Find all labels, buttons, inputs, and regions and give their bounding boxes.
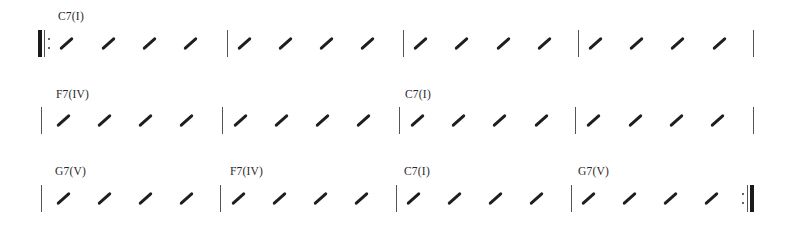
beat-slash: [354, 192, 369, 206]
barline: [571, 185, 572, 212]
chord-symbol: G7(V): [55, 165, 86, 177]
beat-slash: [622, 192, 637, 206]
beat-slash: [581, 192, 596, 206]
beat-slash: [492, 114, 507, 128]
beat-slash: [669, 114, 684, 128]
chord-symbol: C7(I): [404, 165, 430, 177]
beat-slash: [56, 192, 71, 206]
beat-slash: [315, 114, 330, 128]
barline: [575, 107, 576, 134]
end-repeat-thin-bar: [747, 185, 748, 212]
beat-slash: [138, 114, 153, 128]
beat-slash: [710, 114, 725, 128]
beat-slash: [56, 114, 71, 128]
barline: [222, 107, 223, 134]
repeat-dot: [742, 193, 744, 195]
barline: [41, 185, 42, 212]
beat-slash: [447, 192, 462, 206]
beat-slash: [410, 114, 425, 128]
end-repeat-thick-bar: [750, 185, 754, 212]
beat-slash: [406, 192, 421, 206]
beat-slash: [451, 114, 466, 128]
barline: [399, 107, 400, 134]
chord-symbol: F7(IV): [56, 88, 89, 100]
barline: [41, 107, 42, 134]
beat-slash: [233, 114, 248, 128]
system-3: G7(V) F7(IV) C7(I) G7(V): [0, 0, 794, 60]
beat-slash: [179, 114, 194, 128]
beat-slash: [97, 114, 112, 128]
barline: [753, 107, 754, 134]
beat-slash: [274, 114, 289, 128]
beat-slash: [534, 114, 549, 128]
beat-slash: [586, 114, 601, 128]
beat-slash: [488, 192, 503, 206]
beat-slash: [628, 114, 643, 128]
chord-symbol: C7(I): [405, 88, 431, 100]
beat-slash: [663, 192, 678, 206]
lead-sheet: C7(I) F7(IV): [0, 0, 794, 225]
beat-slash: [97, 192, 112, 206]
barline: [396, 185, 397, 212]
barline: [220, 185, 221, 212]
beat-slash: [356, 114, 371, 128]
beat-slash: [231, 192, 246, 206]
beat-slash: [179, 192, 194, 206]
beat-slash: [704, 192, 719, 206]
beat-slash: [138, 192, 153, 206]
beat-slash: [529, 192, 544, 206]
repeat-dot: [742, 202, 744, 204]
beat-slash: [313, 192, 328, 206]
chord-symbol: G7(V): [578, 165, 609, 177]
beat-slash: [272, 192, 287, 206]
chord-symbol: F7(IV): [230, 165, 263, 177]
